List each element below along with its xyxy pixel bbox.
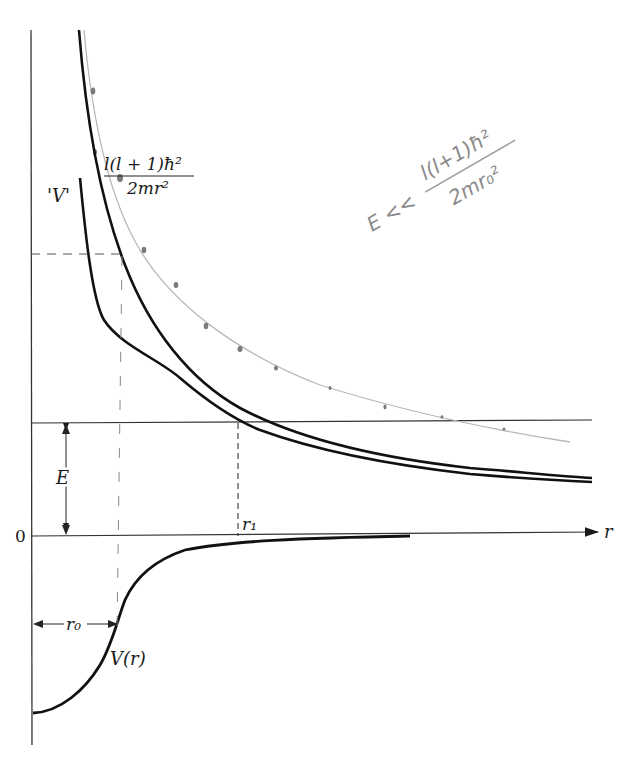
r1-label: r₁: [242, 514, 257, 534]
r0-dashed-line: [117, 256, 122, 630]
handwritten-note: E << l(l+1)ħ² 2mr₀²: [354, 115, 531, 252]
pencil-dot: [503, 428, 506, 431]
arrow-up-head: [62, 424, 70, 434]
pencil-sketch-curve: [84, 30, 570, 442]
pencil-dot: [441, 415, 444, 419]
pencil-dot: [383, 405, 386, 410]
pencil-dot: [238, 346, 243, 352]
pencil-dot: [329, 386, 332, 390]
pencil-dot: [274, 365, 278, 370]
arrow-left-head: [33, 620, 43, 628]
centrifugal-denominator-label: 2mr²: [126, 178, 169, 198]
effective-potential-label: 'V': [47, 185, 70, 206]
centrifugal-numerator-label: l(l + 1)ħ²: [104, 154, 182, 174]
handwritten-prefix: E <<: [363, 189, 420, 236]
arrow-down-head: [62, 525, 70, 535]
diagram-canvas: l(l + 1)ħ² 2mr² 'V' E 0 r r₁ r₀ V(r) E <…: [0, 0, 634, 759]
pencil-dot: [91, 88, 96, 95]
energy-line: [31, 420, 592, 423]
zero-label: 0: [15, 526, 26, 546]
potential-label: V(r): [110, 648, 146, 669]
centrifugal-curve: [79, 30, 592, 478]
pencil-dot: [117, 174, 123, 182]
pencil-dot: [174, 282, 179, 288]
r-axis-label: r: [604, 521, 614, 542]
y-axis: [31, 30, 32, 745]
pencil-dot: [142, 247, 147, 254]
r0-label: r₀: [66, 614, 81, 634]
pencil-dot: [204, 323, 209, 330]
energy-label: E: [55, 467, 69, 488]
r-axis: [31, 532, 598, 536]
